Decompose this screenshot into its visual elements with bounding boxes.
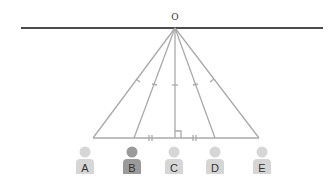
person-d: D <box>206 147 224 175</box>
tick-ob <box>152 84 157 85</box>
ray-ob <box>134 28 175 138</box>
right-angle-mark <box>175 131 181 138</box>
tick-od <box>193 84 198 85</box>
person-head-icon <box>257 147 268 158</box>
person-label: B <box>128 162 135 174</box>
person-head-icon <box>127 147 138 158</box>
tick-oe <box>210 79 214 82</box>
rays <box>93 28 259 141</box>
person-e: E <box>253 147 271 175</box>
person-c: C <box>165 147 183 175</box>
ray-od <box>175 28 215 138</box>
person-head-icon <box>210 147 221 158</box>
apex-label: O <box>171 12 178 22</box>
person-label: E <box>258 162 265 174</box>
ray-oa <box>93 28 175 138</box>
person-label: C <box>170 162 178 174</box>
person-a: A <box>76 147 94 175</box>
person-b: B <box>123 147 141 175</box>
ray-oe <box>175 28 259 138</box>
person-head-icon <box>169 147 180 158</box>
person-label: A <box>81 162 89 174</box>
person-label: D <box>211 162 219 174</box>
geometry-diagram: O A B C <box>0 0 330 184</box>
person-head-icon <box>80 147 91 158</box>
